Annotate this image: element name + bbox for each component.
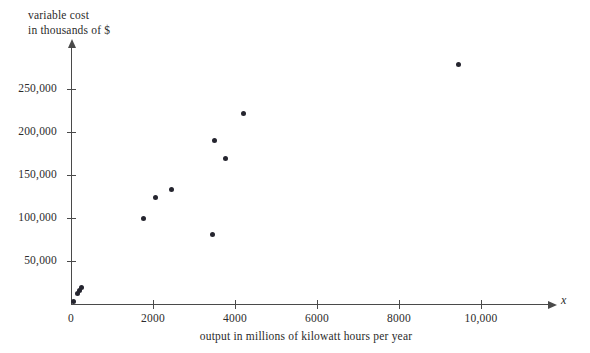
- data-point: [141, 216, 146, 221]
- y-axis-line: [71, 48, 72, 304]
- y-tick-label: 100,000: [0, 211, 57, 223]
- y-tick-mark: [67, 132, 76, 133]
- x-tick-label: 6000: [277, 312, 357, 324]
- data-point: [223, 156, 228, 161]
- data-point: [241, 111, 246, 116]
- x-tick-mark: [153, 300, 154, 309]
- data-point: [153, 195, 158, 200]
- scatter-plot-figure: variable cost in thousands of $ x 50,000…: [0, 0, 590, 353]
- data-point: [210, 232, 215, 237]
- y-tick-label: 150,000: [0, 168, 57, 180]
- x-axis-arrow-icon: [548, 301, 557, 309]
- y-tick-label: 250,000: [0, 82, 57, 94]
- y-tick-mark: [67, 89, 76, 90]
- y-tick-label: 50,000: [0, 254, 57, 266]
- y-tick-mark: [67, 261, 76, 262]
- x-axis-variable-label: x: [561, 293, 566, 308]
- y-tick-mark: [67, 218, 76, 219]
- x-tick-mark: [481, 300, 482, 309]
- x-axis-line: [71, 304, 548, 305]
- data-point: [71, 299, 76, 304]
- x-tick-label: 10,000: [441, 312, 521, 324]
- x-tick-label: 8000: [359, 312, 439, 324]
- data-point: [456, 62, 461, 67]
- y-axis-title-line-1: variable cost: [28, 8, 110, 23]
- x-tick-label: 0: [31, 312, 111, 324]
- y-axis-arrow-icon: [68, 39, 76, 48]
- y-axis-title: variable cost in thousands of $: [28, 8, 110, 38]
- x-tick-mark: [235, 300, 236, 309]
- y-tick-mark: [67, 175, 76, 176]
- x-tick-mark: [317, 300, 318, 309]
- y-axis-title-line-2: in thousands of $: [28, 23, 110, 38]
- x-axis-title: output in millions of kilowatt hours per…: [0, 330, 590, 342]
- x-tick-label: 4000: [195, 312, 275, 324]
- data-point: [212, 138, 217, 143]
- data-point: [169, 187, 174, 192]
- y-tick-label: 200,000: [0, 125, 57, 137]
- x-tick-mark: [399, 300, 400, 309]
- x-tick-label: 2000: [113, 312, 193, 324]
- data-point: [79, 285, 84, 290]
